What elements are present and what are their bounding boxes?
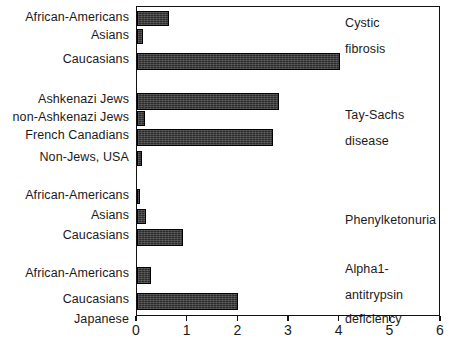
category-label: Asians <box>0 28 132 43</box>
category-label: Caucasians <box>0 292 132 307</box>
category-label: Ashkenazi Jews <box>0 92 132 107</box>
category-label: Caucasians <box>0 52 132 67</box>
x-tick-label: 4 <box>335 322 343 338</box>
bar <box>137 151 142 166</box>
bar <box>137 189 140 204</box>
x-tick-mark <box>439 316 441 321</box>
x-tick-label: 5 <box>385 322 393 338</box>
bar <box>137 11 169 26</box>
x-tick-label: 0 <box>132 322 140 338</box>
x-tick-label: 2 <box>233 322 241 338</box>
bar <box>137 293 238 310</box>
category-label: African-Americans <box>0 188 132 203</box>
disease-annotation: Tay-Sachs <box>345 108 404 123</box>
bar <box>137 267 151 284</box>
disease-annotation: fibrosis <box>345 42 385 57</box>
x-tick-mark <box>338 316 340 321</box>
x-tick-label: 1 <box>183 322 191 338</box>
x-tick-label: 3 <box>284 322 292 338</box>
disease-annotation: Alpha1- <box>345 262 389 277</box>
category-label: Caucasians <box>0 228 132 243</box>
x-tick-mark <box>135 316 137 321</box>
bar <box>137 229 183 246</box>
x-tick-label: 6 <box>436 322 444 338</box>
category-label: African-Americans <box>0 266 132 281</box>
plot-area <box>136 6 440 316</box>
x-tick-mark <box>287 316 289 321</box>
bar <box>137 129 273 146</box>
category-label: non-Ashkenazi Jews <box>0 110 132 125</box>
bar <box>137 209 146 224</box>
disease-annotation: antitrypsin <box>345 288 403 303</box>
x-tick-mark <box>389 316 391 321</box>
x-tick-mark <box>237 316 239 321</box>
bar <box>137 53 340 70</box>
bar <box>137 111 145 126</box>
category-label: Asians <box>0 208 132 223</box>
disease-annotation: Phenylketonuria <box>345 213 436 228</box>
bar <box>137 29 143 44</box>
bar-chart-figure: African-Americans Asians Caucasians Ashk… <box>0 0 456 353</box>
category-label: African-Americans <box>0 10 132 25</box>
bar <box>137 93 279 110</box>
category-label: French Canadians <box>0 128 132 143</box>
disease-annotation: disease <box>345 134 389 149</box>
x-tick-mark <box>186 316 188 321</box>
category-label: Non-Jews, USA <box>0 150 132 165</box>
disease-annotation: Cystic <box>345 16 380 31</box>
x-axis: 0123456 <box>0 316 456 353</box>
